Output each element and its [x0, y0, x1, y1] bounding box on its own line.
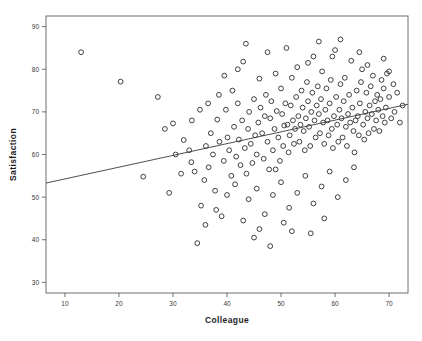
data-point-marker: [241, 218, 246, 223]
data-point-marker: [287, 205, 292, 210]
data-point-marker: [374, 118, 379, 123]
data-point-marker: [238, 163, 243, 168]
data-point-marker: [192, 169, 197, 174]
data-point-marker: [233, 182, 238, 187]
data-point-marker: [250, 161, 255, 166]
data-point-marker: [217, 139, 222, 144]
data-point-marker: [287, 133, 292, 138]
data-point-marker: [381, 56, 386, 61]
data-point-marker: [208, 131, 213, 136]
data-point-marker: [289, 229, 294, 234]
x-tick-label: 70: [385, 300, 393, 307]
y-axis-ticks: 30405060708090: [32, 23, 46, 286]
data-point-marker: [324, 86, 329, 91]
data-point-marker: [310, 90, 315, 95]
data-point-marker: [299, 88, 304, 93]
chart-canvas: 10203040506070 30405060708090 Colleague …: [0, 0, 422, 341]
data-point-marker: [343, 178, 348, 183]
data-point-marker: [336, 139, 341, 144]
data-point-marker: [311, 201, 316, 206]
data-point-marker: [257, 76, 262, 81]
data-point-marker: [281, 144, 286, 149]
data-point-marker: [334, 95, 339, 100]
data-point-marker: [349, 58, 354, 63]
data-point-marker: [320, 69, 325, 74]
data-point-marker: [244, 41, 249, 46]
data-point-marker: [286, 150, 291, 155]
data-point-marker: [167, 190, 172, 195]
data-point-marker: [227, 148, 232, 153]
data-point-marker: [265, 50, 270, 55]
data-point-marker: [305, 80, 310, 85]
fit-line-segment: [46, 104, 408, 183]
data-point-marker: [232, 124, 237, 129]
data-point-marker: [316, 112, 321, 117]
data-point-marker: [295, 65, 300, 70]
data-point-marker: [274, 109, 279, 114]
data-point-marker: [318, 131, 323, 136]
data-point-marker: [264, 92, 269, 97]
data-point-marker: [267, 167, 272, 172]
data-point-marker: [254, 186, 259, 191]
data-point-marker: [252, 235, 257, 240]
data-point-marker: [380, 114, 385, 119]
x-tick-label: 30: [169, 300, 177, 307]
data-point-marker: [389, 116, 394, 121]
data-point-marker: [328, 78, 333, 83]
data-point-marker: [379, 78, 384, 83]
data-point-marker: [343, 124, 348, 129]
x-tick-label: 40: [223, 300, 231, 307]
data-point-marker: [351, 129, 356, 134]
data-point-marker: [288, 103, 293, 108]
data-point-marker: [215, 117, 220, 122]
data-point-marker: [303, 116, 308, 121]
data-point-marker: [326, 133, 331, 138]
data-point-marker: [315, 84, 320, 89]
data-point-marker: [155, 95, 160, 100]
data-point-marker: [308, 144, 313, 149]
data-point-marker: [225, 193, 230, 198]
data-point-marker: [319, 184, 324, 189]
data-point-marker: [361, 122, 366, 127]
data-point-marker: [189, 118, 194, 123]
data-point-marker: [279, 180, 284, 185]
data-point-marker: [235, 67, 240, 72]
data-point-marker: [242, 146, 247, 151]
data-point-marker: [314, 103, 319, 108]
data-point-marker: [331, 146, 336, 151]
data-point-marker: [276, 135, 281, 140]
data-point-marker: [214, 208, 219, 213]
data-point-marker: [311, 54, 316, 59]
data-point-marker: [292, 141, 297, 146]
data-point-marker: [199, 203, 204, 208]
data-point-marker: [268, 244, 273, 249]
data-point-marker: [284, 46, 289, 51]
data-point-marker: [244, 171, 249, 176]
data-point-marker: [229, 173, 234, 178]
data-point-marker: [308, 231, 313, 236]
data-point-marker: [294, 95, 299, 100]
data-point-marker: [221, 158, 226, 163]
data-point-marker: [398, 120, 403, 125]
data-point-marker: [329, 127, 334, 132]
data-point-marker: [367, 103, 372, 108]
data-point-marker: [269, 99, 274, 104]
data-point-marker: [387, 95, 392, 100]
data-point-marker: [206, 165, 211, 170]
data-point-marker: [300, 105, 305, 110]
data-point-marker: [316, 39, 321, 44]
data-point-marker: [265, 139, 270, 144]
data-point-marker: [79, 50, 84, 55]
data-point-marker: [224, 107, 229, 112]
data-point-marker: [206, 101, 211, 106]
x-axis-ticks: 10203040506070: [61, 293, 393, 307]
data-point-marker: [382, 120, 387, 125]
data-point-marker: [271, 148, 276, 153]
data-point-marker: [322, 216, 327, 221]
data-point-marker: [246, 197, 251, 202]
data-point-marker: [179, 171, 184, 176]
data-point-marker: [338, 37, 343, 42]
data-point-marker: [360, 67, 365, 72]
data-point-marker: [271, 193, 276, 198]
data-point-marker: [327, 101, 332, 106]
